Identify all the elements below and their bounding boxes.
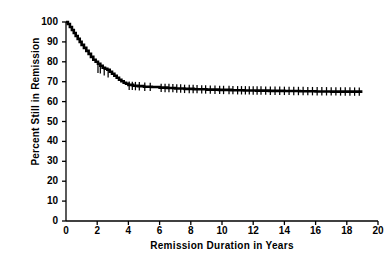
axis-lines	[66, 22, 378, 221]
x-tick-label: 6	[148, 226, 172, 236]
x-tick-label: 12	[241, 226, 265, 236]
x-axis-tick-labels: 02468101214161820	[0, 226, 390, 240]
survival-curve-figure: Percent Still in Remission 0102030405060…	[0, 0, 390, 264]
x-tick-label: 18	[335, 226, 359, 236]
survival-step-line	[66, 22, 362, 92]
x-tick-label: 14	[272, 226, 296, 236]
survival-curve	[66, 22, 362, 92]
plot-area	[0, 0, 390, 264]
x-tick-label: 16	[304, 226, 328, 236]
x-tick-label: 2	[85, 226, 109, 236]
x-tick-label: 10	[210, 226, 234, 236]
x-tick-label: 4	[116, 226, 140, 236]
x-tick-label: 20	[366, 226, 390, 236]
x-tick-label: 0	[54, 226, 78, 236]
x-tick-label: 8	[179, 226, 203, 236]
x-axis-title: Remission Duration in Years	[66, 240, 378, 251]
